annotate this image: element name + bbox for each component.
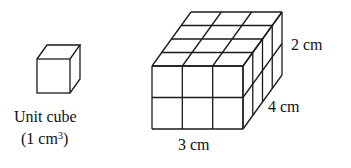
unit-cube-volume: (1 cm3) [21, 130, 68, 148]
depth-label: 4 cm [268, 98, 300, 116]
length-label: 3 cm [178, 136, 210, 154]
unit-cube [37, 45, 80, 93]
unit-cube-label: Unit cube [14, 108, 77, 126]
volume-close: ) [63, 130, 68, 147]
volume-text: (1 cm [21, 130, 58, 147]
height-label: 2 cm [291, 36, 323, 54]
rectangular-prism [152, 12, 282, 129]
volume-exponent: 3 [58, 130, 63, 141]
